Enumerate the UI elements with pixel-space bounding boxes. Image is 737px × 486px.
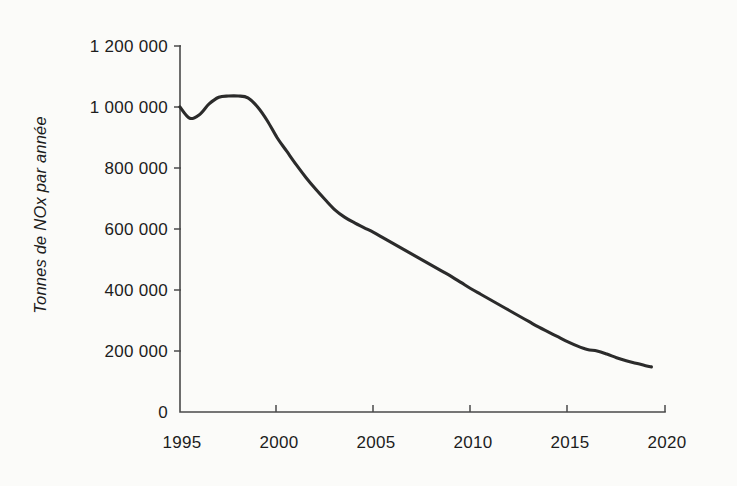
y-tick-label-400000: 400 000 [104, 281, 168, 300]
y-tick-label-800000: 800 000 [104, 159, 168, 178]
y-axis-title: Tonnes de NOx par année [31, 116, 49, 314]
y-tick-label-600000: 600 000 [104, 220, 168, 239]
y-tick-label-200000: 200 000 [104, 342, 168, 361]
chart-page: Tonnes de NOx par année 1 200 000 1 000 … [0, 0, 737, 486]
x-tick-label-2020: 2020 [647, 433, 686, 452]
y-tick-label-0: 0 [158, 403, 168, 422]
y-tick-label-1000000: 1 000 000 [90, 98, 168, 117]
chart-svg: Tonnes de NOx par année 1 200 000 1 000 … [0, 0, 737, 486]
nox-emissions-line-chart: Tonnes de NOx par année 1 200 000 1 000 … [0, 0, 737, 486]
x-tick-label-2015: 2015 [550, 433, 589, 452]
x-tick-label-2010: 2010 [453, 433, 492, 452]
x-tick-label-2000: 2000 [259, 433, 298, 452]
x-tick-label-1995: 1995 [162, 433, 201, 452]
series-line-nox [180, 96, 651, 367]
x-tick-label-2005: 2005 [356, 433, 395, 452]
y-tick-label-1200000: 1 200 000 [90, 37, 168, 56]
